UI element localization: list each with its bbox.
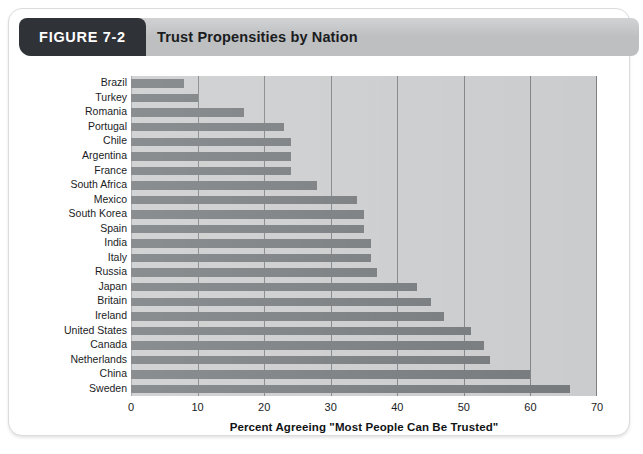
category-label-china: China — [9, 367, 127, 379]
bar-row — [131, 221, 596, 236]
bar-brazil — [131, 79, 184, 87]
category-label-brazil: Brazil — [9, 76, 127, 88]
bar-united-states — [131, 327, 471, 335]
category-label-spain: Spain — [9, 222, 127, 234]
category-label-argentina: Argentina — [9, 149, 127, 161]
category-label-portugal: Portugal — [9, 120, 127, 132]
bar-row — [131, 149, 596, 164]
bar-chile — [131, 138, 291, 146]
category-label-ireland: Ireland — [9, 309, 127, 321]
x-tick-label-60: 60 — [524, 401, 536, 413]
bar-britain — [131, 298, 431, 306]
bar-row — [131, 280, 596, 295]
bar-row — [131, 381, 596, 396]
category-label-france: France — [9, 164, 127, 176]
category-label-mexico: Mexico — [9, 193, 127, 205]
bar-spain — [131, 225, 364, 233]
bar-row — [131, 91, 596, 106]
category-label-russia: Russia — [9, 265, 127, 277]
plot-area — [131, 76, 597, 396]
category-label-canada: Canada — [9, 338, 127, 350]
figure-number-tab: FIGURE 7-2 — [19, 18, 146, 56]
bar-argentina — [131, 152, 291, 160]
bar-row — [131, 120, 596, 135]
x-tick-label-50: 50 — [458, 401, 470, 413]
bar-india — [131, 239, 371, 247]
bar-france — [131, 167, 291, 175]
bar-chart: BrazilTurkeyRomaniaPortugalChileArgentin… — [9, 65, 643, 454]
bar-row — [131, 192, 596, 207]
bar-italy — [131, 254, 371, 262]
bar-row — [131, 367, 596, 382]
category-label-united-states: United States — [9, 324, 127, 336]
bar-russia — [131, 268, 377, 276]
x-tick-label-10: 10 — [191, 401, 203, 413]
bar-sweden — [131, 385, 570, 393]
category-label-japan: Japan — [9, 280, 127, 292]
category-label-sweden: Sweden — [9, 382, 127, 394]
bar-row — [131, 323, 596, 338]
figure-card: FIGURE 7-2 Trust Propensities by Nation … — [8, 8, 630, 436]
bar-row — [131, 265, 596, 280]
bar-netherlands — [131, 356, 490, 364]
bar-south-korea — [131, 210, 364, 218]
figure-number-label: FIGURE 7-2 — [39, 29, 126, 45]
category-label-south-africa: South Africa — [9, 178, 127, 190]
bar-row — [131, 251, 596, 266]
category-axis-labels: BrazilTurkeyRomaniaPortugalChileArgentin… — [9, 76, 127, 396]
bar-mexico — [131, 196, 357, 204]
bar-japan — [131, 283, 417, 291]
x-tick-label-20: 20 — [258, 401, 270, 413]
bar-south-africa — [131, 181, 317, 189]
bar-row — [131, 338, 596, 353]
category-label-britain: Britain — [9, 294, 127, 306]
category-label-romania: Romania — [9, 105, 127, 117]
x-tick-label-40: 40 — [391, 401, 403, 413]
category-label-chile: Chile — [9, 134, 127, 146]
bar-turkey — [131, 94, 198, 102]
bar-romania — [131, 108, 244, 116]
x-axis-title: Percent Agreeing "Most People Can Be Tru… — [131, 421, 597, 433]
bar-ireland — [131, 312, 444, 320]
bar-china — [131, 370, 530, 378]
bar-row — [131, 105, 596, 120]
bar-row — [131, 76, 596, 91]
bar-row — [131, 352, 596, 367]
category-label-south-korea: South Korea — [9, 207, 127, 219]
category-label-turkey: Turkey — [9, 91, 127, 103]
bar-canada — [131, 341, 484, 349]
bar-row — [131, 134, 596, 149]
bar-row — [131, 207, 596, 222]
x-tick-label-70: 70 — [591, 401, 603, 413]
bar-row — [131, 178, 596, 193]
x-tick-label-0: 0 — [128, 401, 134, 413]
bar-row — [131, 163, 596, 178]
bar-row — [131, 236, 596, 251]
category-label-india: India — [9, 236, 127, 248]
bar-row — [131, 309, 596, 324]
category-label-italy: Italy — [9, 251, 127, 263]
figure-title: Trust Propensities by Nation — [157, 18, 358, 56]
bar-row — [131, 294, 596, 309]
bar-portugal — [131, 123, 284, 131]
x-tick-label-30: 30 — [325, 401, 337, 413]
category-label-netherlands: Netherlands — [9, 353, 127, 365]
